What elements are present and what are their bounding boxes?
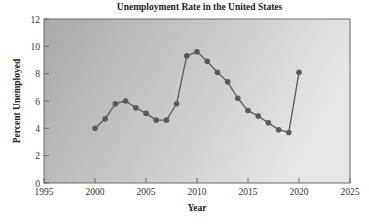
x-tick-label: 1995 bbox=[35, 187, 54, 197]
data-point bbox=[204, 59, 210, 65]
y-tick-label: 2 bbox=[35, 151, 40, 161]
y-tick-label: 10 bbox=[31, 42, 41, 52]
data-point bbox=[215, 70, 221, 76]
data-point bbox=[266, 120, 272, 126]
x-tick-label: 2005 bbox=[137, 187, 156, 197]
y-tick-label: 12 bbox=[31, 15, 41, 25]
data-point bbox=[113, 101, 119, 107]
line-chart: 024681012 1995200020052010201520202025 Y… bbox=[0, 0, 369, 224]
x-tick-label: 2010 bbox=[188, 187, 207, 197]
data-point bbox=[92, 126, 98, 132]
y-tick-label: 6 bbox=[35, 97, 40, 107]
y-tick-label: 8 bbox=[35, 69, 40, 79]
data-point bbox=[245, 108, 251, 114]
data-point bbox=[153, 117, 159, 123]
data-point bbox=[174, 101, 180, 107]
data-point bbox=[123, 98, 129, 104]
data-point bbox=[164, 117, 170, 123]
plot-area bbox=[44, 19, 350, 183]
y-axis-label: Percent Unemployed bbox=[12, 58, 22, 143]
x-axis-label: Year bbox=[188, 203, 208, 213]
data-point bbox=[276, 127, 282, 133]
data-point bbox=[194, 49, 200, 55]
data-point bbox=[143, 111, 149, 117]
data-point bbox=[225, 79, 231, 85]
x-tick-label: 2015 bbox=[239, 187, 258, 197]
data-point bbox=[286, 130, 292, 136]
data-point bbox=[184, 53, 190, 59]
x-tick-label: 2000 bbox=[86, 187, 105, 197]
y-tick-label: 4 bbox=[35, 124, 40, 134]
data-point bbox=[102, 116, 108, 122]
data-point bbox=[133, 105, 139, 111]
data-point bbox=[235, 95, 241, 101]
data-point bbox=[255, 113, 261, 119]
data-point bbox=[296, 70, 302, 76]
x-tick-label: 2025 bbox=[341, 187, 360, 197]
x-tick-label: 2020 bbox=[290, 187, 309, 197]
